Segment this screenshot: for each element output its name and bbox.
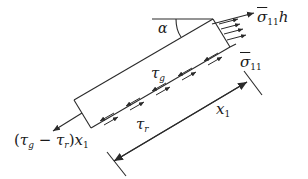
tau-r-label: τr xyxy=(136,117,149,134)
tau-subscript: g xyxy=(159,73,165,83)
sigma11-label: σ11 xyxy=(240,55,262,72)
distributed-stress-arrows xyxy=(219,19,246,40)
sigma11h-label: σ11h xyxy=(257,10,288,27)
sigma-symbol: σ xyxy=(257,8,267,26)
resultant-force-arrow xyxy=(212,13,254,24)
x1-dimension xyxy=(107,71,262,176)
x-subscript: 1 xyxy=(83,140,89,150)
tau-g-symbol: τ xyxy=(20,131,28,149)
x-symbol: x xyxy=(75,131,83,149)
sigma-subscript: 11 xyxy=(267,17,278,27)
h-symbol: h xyxy=(279,8,289,26)
diagram-canvas: α σ11h σ11 τg τr (τg − τr)x1 x1 xyxy=(0,0,308,179)
x1-label: x1 xyxy=(216,102,230,119)
interface-line xyxy=(230,44,236,47)
tau-subscript: r xyxy=(144,124,148,134)
alpha-label: α xyxy=(158,21,167,35)
alpha-symbol: α xyxy=(158,20,167,36)
reaction-force-arrow xyxy=(53,113,82,131)
x-subscript: 1 xyxy=(224,109,230,119)
reaction-label: (τg − τr)x1 xyxy=(14,133,89,150)
sigma-symbol: σ xyxy=(240,53,250,71)
minus-sign: − xyxy=(34,131,56,149)
sigma-subscript: 11 xyxy=(250,62,261,72)
shear-stress-arrows xyxy=(100,53,222,125)
tau-g-label: τg xyxy=(151,66,165,83)
